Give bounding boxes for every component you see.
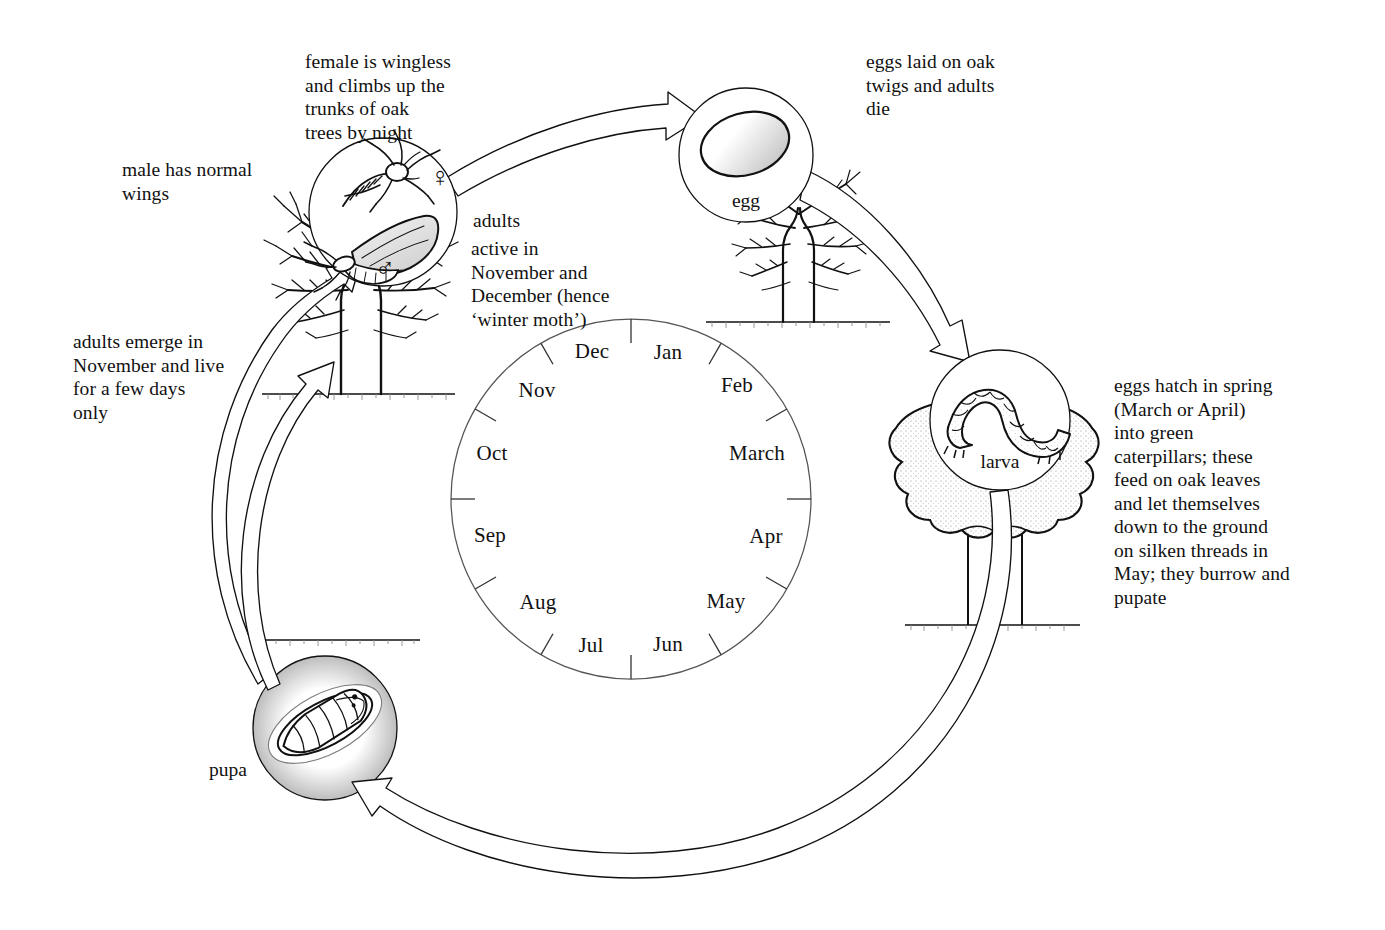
ground-line-egg-tree [706,322,890,328]
caption-adults-heading: adults [473,209,520,233]
month-label-apr: Apr [749,524,782,549]
caption-male-wings: male has normal wings [122,158,252,205]
month-label-dec: Dec [575,339,609,364]
month-tick-marks [451,319,811,679]
caption-eggs-laid: eggs laid on oak twigs and adults die [866,50,995,121]
month-label-nov: Nov [519,378,556,403]
male-symbol: ♂ [375,255,395,282]
ground-line-pupa-soil [243,640,420,646]
caption-female-wingless: female is wingless and climbs up the tru… [305,50,451,144]
female-symbol: ♀ [430,164,450,191]
month-label-jul: Jul [578,633,603,658]
month-label-may: May [706,589,745,614]
caption-adults-emerge: adults emerge in November and live for a… [73,330,224,424]
life-cycle-diagram: Jan Feb March Apr May Jun Jul Aug Sep Oc… [0,0,1385,930]
caption-adults-active: active in November and December (hence ‘… [471,237,609,331]
month-label-jan: Jan [654,340,683,365]
month-label-feb: Feb [721,373,753,398]
month-wheel-circle [451,319,811,679]
arrow-pupa-to-adults-inner [241,362,334,690]
month-label-sep: Sep [474,523,506,548]
stage-label-larva: larva [981,451,1020,473]
arrow-larva-to-pupa [352,490,1011,878]
month-label-aug: Aug [520,590,557,615]
stage-label-pupa: pupa [209,759,247,781]
arrow-adults-to-egg [446,92,702,196]
month-label-oct: Oct [477,441,508,466]
stage-label-egg: egg [732,190,760,212]
ground-line-winter-tree [262,394,455,400]
arrow-pupa-to-adults [212,258,362,684]
arrow-egg-to-larva [800,170,970,362]
month-label-march: March [729,441,785,466]
month-label-jun: Jun [653,632,683,657]
caption-eggs-hatch: eggs hatch in spring (March or April) in… [1114,374,1290,609]
